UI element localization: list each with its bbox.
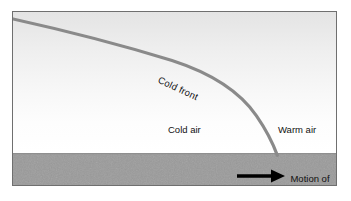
motion-of-front-line-2: front: [300, 184, 319, 186]
motion-of-front-label: Motion of front: [285, 173, 335, 186]
motion-arrow-icon: [235, 167, 287, 185]
cold-front-diagram-figure: Cold front Cold air Warm air Motion of f…: [0, 0, 351, 201]
cold-air-label: Cold air: [168, 124, 201, 135]
diagram-frame: Cold front Cold air Warm air Motion of f…: [12, 11, 337, 186]
cold-front-boundary-line: [13, 12, 336, 185]
warm-air-label: Warm air: [278, 124, 316, 135]
motion-of-front-line-1: Motion of: [290, 173, 329, 184]
